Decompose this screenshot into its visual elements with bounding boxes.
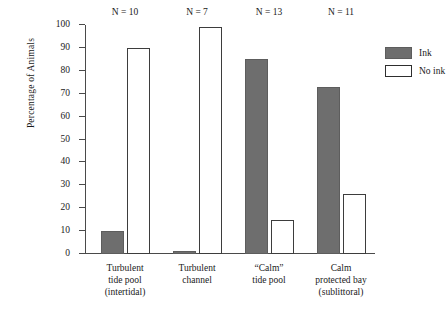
bar-no-ink-group-3 bbox=[271, 220, 294, 254]
y-tick-20: 20 bbox=[79, 207, 85, 208]
y-tick-0: 0 bbox=[79, 253, 85, 254]
category-label-line: protected bay bbox=[315, 274, 366, 286]
y-tick-label-50: 50 bbox=[40, 134, 70, 144]
category-label-line: tide pool bbox=[105, 274, 146, 286]
y-tick-label-40: 40 bbox=[40, 156, 70, 166]
plot-area: 0102030405060708090100 N = 10Turbulentti… bbox=[85, 25, 375, 254]
category-label-2: Turbulentchannel bbox=[178, 262, 215, 286]
legend: Ink No ink bbox=[385, 46, 445, 82]
category-label-line: Calm bbox=[315, 262, 366, 274]
legend-item-no-ink: No ink bbox=[385, 64, 445, 77]
category-label-line: “Calm” bbox=[252, 262, 286, 274]
bar-ink-group-4 bbox=[317, 87, 340, 254]
y-tick-label-100: 100 bbox=[40, 19, 70, 29]
sample-size-label-1: N = 10 bbox=[112, 7, 138, 17]
bar-ink-group-1 bbox=[101, 231, 124, 254]
category-label-4: Calmprotected bay(sublittoral) bbox=[315, 262, 366, 298]
bar-no-ink-group-1 bbox=[127, 48, 150, 254]
y-tick-60: 60 bbox=[79, 116, 85, 117]
sample-size-label-4: N = 11 bbox=[328, 7, 354, 17]
y-tick-label-80: 80 bbox=[40, 65, 70, 75]
y-tick-50: 50 bbox=[79, 139, 85, 140]
y-tick-label-90: 90 bbox=[40, 42, 70, 52]
legend-item-ink: Ink bbox=[385, 46, 445, 59]
legend-swatch-no-ink bbox=[385, 65, 412, 77]
y-tick-100: 100 bbox=[79, 24, 85, 25]
category-label-line: tide pool bbox=[252, 274, 286, 286]
category-label-line: (sublittoral) bbox=[315, 286, 366, 298]
category-label-3: “Calm”tide pool bbox=[252, 262, 286, 286]
legend-swatch-ink bbox=[385, 47, 412, 59]
bar-chart: Percentage of Animals 010203040506070809… bbox=[0, 0, 448, 312]
y-tick-30: 30 bbox=[79, 184, 85, 185]
y-tick-70: 70 bbox=[79, 93, 85, 94]
sample-size-label-2: N = 7 bbox=[186, 7, 208, 17]
category-label-1: Turbulenttide pool(intertidal) bbox=[105, 262, 146, 298]
sample-size-label-3: N = 13 bbox=[256, 7, 282, 17]
bar-no-ink-group-4 bbox=[343, 194, 366, 254]
y-tick-10: 10 bbox=[79, 230, 85, 231]
y-axis-title: Percentage of Animals bbox=[26, 8, 36, 158]
legend-label-ink: Ink bbox=[419, 48, 432, 58]
y-tick-40: 40 bbox=[79, 161, 85, 162]
y-tick-label-70: 70 bbox=[40, 88, 70, 98]
bar-ink-group-2 bbox=[173, 251, 196, 254]
bar-no-ink-group-2 bbox=[199, 27, 222, 254]
y-tick-90: 90 bbox=[79, 47, 85, 48]
category-label-line: (intertidal) bbox=[105, 286, 146, 298]
y-tick-label-30: 30 bbox=[40, 179, 70, 189]
y-tick-label-10: 10 bbox=[40, 225, 70, 235]
y-tick-label-0: 0 bbox=[40, 248, 70, 258]
y-tick-80: 80 bbox=[79, 70, 85, 71]
bar-ink-group-3 bbox=[245, 59, 268, 254]
legend-label-no-ink: No ink bbox=[419, 66, 445, 76]
category-label-line: Turbulent bbox=[178, 262, 215, 274]
category-label-line: channel bbox=[178, 274, 215, 286]
y-tick-label-20: 20 bbox=[40, 202, 70, 212]
category-label-line: Turbulent bbox=[105, 262, 146, 274]
y-axis-line bbox=[85, 25, 86, 254]
y-tick-label-60: 60 bbox=[40, 111, 70, 121]
